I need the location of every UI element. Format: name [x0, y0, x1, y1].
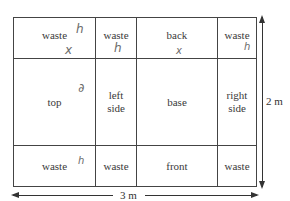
height-label: 2 m [266, 95, 283, 107]
cell-base: base [137, 59, 217, 145]
handwritten-mark: x [65, 43, 72, 57]
width-arrow-right [145, 195, 257, 196]
cell-front: front [137, 146, 217, 186]
handwritten-mark: ∂ [78, 81, 84, 95]
arrow-right-icon [251, 192, 259, 198]
cut-off-text [150, 0, 290, 4]
cell-top: top [14, 59, 95, 145]
handwritten-mark: h [114, 41, 122, 55]
net-grid: waste waste back waste top left side bas… [13, 17, 257, 187]
arrow-up-icon [259, 15, 265, 23]
cell-waste: waste [218, 18, 256, 58]
handwritten-mark: h [244, 41, 250, 52]
cell-waste: waste [96, 146, 136, 186]
handwritten-mark: x [176, 45, 182, 56]
width-arrow-left [13, 195, 113, 196]
handwritten-mark: h [78, 155, 84, 166]
cell-left-side: left side [100, 59, 132, 145]
arrow-left-icon [11, 192, 19, 198]
handwritten-mark: h [76, 22, 84, 36]
cell-waste: waste [14, 146, 95, 186]
cell-right-side: right side [222, 59, 252, 145]
arrow-down-icon [259, 181, 265, 189]
width-label: 3 m [120, 189, 137, 201]
cell-waste: waste [218, 146, 256, 186]
height-arrow [262, 17, 263, 187]
